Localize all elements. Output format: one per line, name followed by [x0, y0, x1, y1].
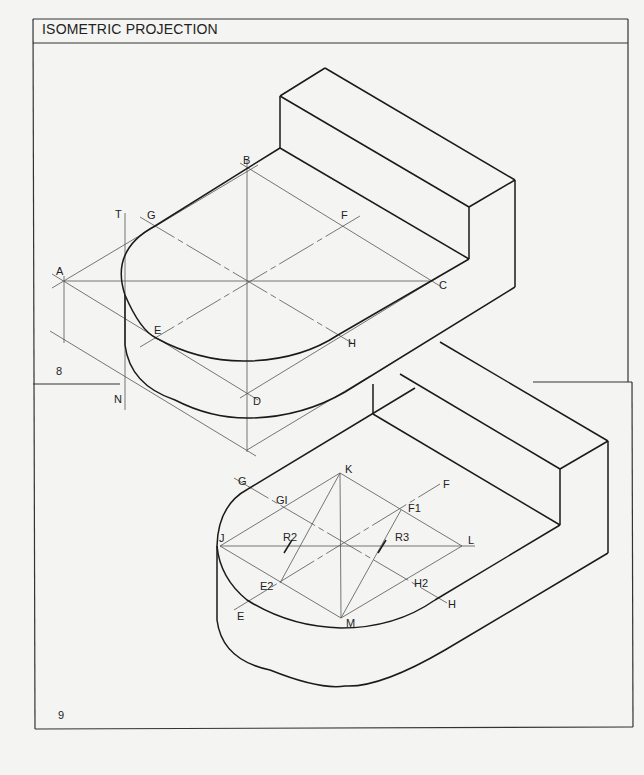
- point-c-label: C: [439, 279, 447, 291]
- figure-number-9: 9: [58, 709, 64, 721]
- point-g-label: G: [238, 475, 247, 487]
- point-h2-label: H2: [414, 577, 428, 589]
- point-a-label: A: [56, 265, 64, 277]
- point-n-label: N: [114, 393, 122, 405]
- point-k-label: K: [345, 463, 353, 475]
- point-t-label: T: [115, 208, 122, 220]
- point-f1-label: F1: [408, 502, 421, 514]
- drawing-sheet: ISOMETRIC PROJECTION: [0, 0, 644, 775]
- point-f-label: F: [341, 209, 348, 221]
- point-m-label: M: [346, 617, 355, 629]
- point-e2-label: E2: [260, 580, 273, 592]
- point-g-label: G: [147, 209, 156, 221]
- figure-number-8: 8: [56, 365, 62, 377]
- point-d-label: D: [253, 395, 261, 407]
- frame: [33, 19, 633, 729]
- point-b-label: B: [243, 154, 250, 166]
- point-f-label: F: [443, 478, 450, 490]
- point-l-label: L: [468, 534, 474, 546]
- point-e-label: E: [154, 324, 161, 336]
- figure-8: A B C D E F G H T N 8: [50, 68, 515, 456]
- isometric-diagram: A B C D E F G H T N 8: [0, 0, 644, 775]
- point-h-label: H: [448, 598, 456, 610]
- radius-r2-label: R2: [283, 531, 297, 543]
- point-j-label: J: [219, 532, 225, 544]
- radius-r3-label: R3: [395, 531, 409, 543]
- point-g1-label: GI: [276, 494, 288, 506]
- point-e-label: E: [237, 610, 244, 622]
- point-h-label: H: [348, 337, 356, 349]
